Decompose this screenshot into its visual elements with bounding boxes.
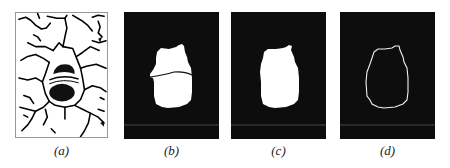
- contour-image: [340, 12, 435, 139]
- merged-region-image: [231, 12, 326, 139]
- scan-band: [124, 124, 219, 126]
- panel-label-b: (b): [124, 143, 219, 159]
- panel-label-a: (a): [14, 143, 109, 159]
- edge-map-image: [16, 13, 107, 137]
- panel-label-d: (d): [340, 143, 435, 159]
- panel-label-c: (c): [231, 143, 326, 159]
- panel-a-edge-map: [15, 12, 108, 138]
- scan-band: [340, 124, 435, 126]
- panel-c-merged-region: [231, 12, 326, 139]
- scan-band: [231, 124, 326, 126]
- segmentation-image: [124, 12, 219, 139]
- panel-b-segmentation: [124, 12, 219, 139]
- panel-d-contour: [340, 12, 435, 139]
